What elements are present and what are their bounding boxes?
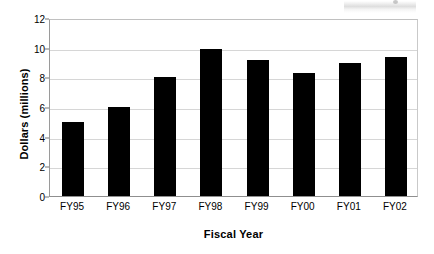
bar — [154, 77, 176, 196]
y-tick-label: 8 — [15, 73, 45, 84]
x-axis-title: Fiscal Year — [49, 228, 418, 240]
x-tick-label: FY96 — [92, 201, 144, 212]
y-tick-label: 10 — [15, 43, 45, 54]
scan-speck — [393, 0, 398, 4]
x-tick-label: FY99 — [231, 201, 283, 212]
x-tick-label: FY98 — [184, 201, 236, 212]
bar — [293, 73, 315, 196]
x-tick-label: FY97 — [138, 201, 190, 212]
bar — [247, 60, 269, 196]
y-tick-label: 2 — [15, 162, 45, 173]
bar — [200, 49, 222, 196]
bar — [62, 122, 84, 196]
x-tick-label: FY02 — [369, 201, 421, 212]
plot-area — [49, 19, 418, 197]
y-tick-label: 4 — [15, 132, 45, 143]
x-tick-label: FY00 — [277, 201, 329, 212]
bar-chart: Dollars (millions) 024681012 FY95FY96FY9… — [0, 0, 434, 254]
x-tick-label: FY01 — [323, 201, 375, 212]
scan-artifact — [344, 1, 416, 13]
bars-group — [50, 20, 417, 196]
y-tick-label: 12 — [15, 14, 45, 25]
y-tick-label: 0 — [15, 192, 45, 203]
bar — [108, 107, 130, 196]
bar — [339, 63, 361, 197]
x-tick-label: FY95 — [46, 201, 98, 212]
y-tick-label: 6 — [15, 103, 45, 114]
bar — [385, 57, 407, 196]
